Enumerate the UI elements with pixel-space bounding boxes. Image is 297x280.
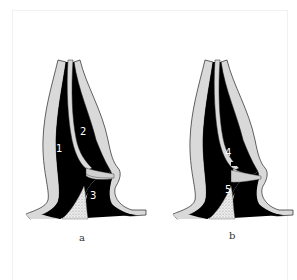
- panel-a-illustration: [26, 60, 146, 219]
- panel-a-caption: a: [79, 232, 85, 243]
- region-label-2: 2: [80, 126, 86, 137]
- panel-b-illustration: [173, 60, 293, 219]
- region-label-5: 5: [225, 184, 231, 195]
- region-label-1: 1: [56, 143, 62, 154]
- region-label-3: 3: [90, 190, 96, 201]
- panel-b-caption: b: [229, 230, 235, 241]
- region-label-4: 4: [225, 147, 231, 158]
